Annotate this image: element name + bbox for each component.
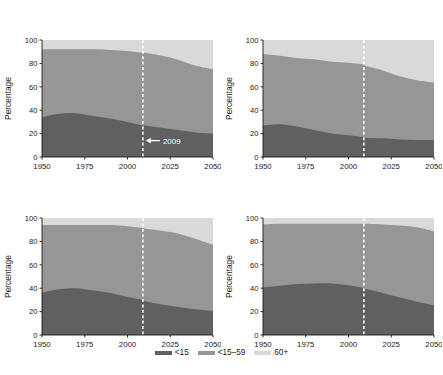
figure-container: A. World 0204060801001950197520002025205… xyxy=(0,0,443,375)
y-tick-label: 20 xyxy=(250,129,258,138)
x-tick-label: 1950 xyxy=(33,162,51,171)
y-tick-label: 0 xyxy=(254,331,258,340)
y-axis-title: Percentage xyxy=(3,77,13,120)
y-tick-label: 100 xyxy=(25,214,38,223)
top-divider xyxy=(0,0,443,3)
y-tick-label: 100 xyxy=(246,36,259,45)
y-tick-label: 80 xyxy=(250,59,258,68)
x-tick-label: 1975 xyxy=(76,340,94,349)
y-tick-label: 40 xyxy=(29,284,37,293)
chart-legend: <15 <15–59 60+ xyxy=(0,349,443,357)
x-tick-label: 1975 xyxy=(297,340,315,349)
y-tick-label: 40 xyxy=(250,106,258,115)
x-tick-label: 1975 xyxy=(76,162,94,171)
x-tick-label: 1950 xyxy=(33,340,51,349)
legend-swatch-under15-icon xyxy=(155,351,172,355)
legend-swatch-60plus-icon xyxy=(254,351,271,355)
legend-label-60plus: 60+ xyxy=(274,349,288,357)
x-tick-label: 2025 xyxy=(383,162,401,171)
x-tick-label: 2025 xyxy=(162,162,180,171)
y-tick-label: 60 xyxy=(250,83,258,92)
panel-b-more-developed-regions: B. More developed regions 02040608010019… xyxy=(221,4,442,184)
y-tick-label: 20 xyxy=(29,129,37,138)
x-tick-label: 2050 xyxy=(425,340,442,349)
x-tick-label: 1975 xyxy=(297,162,315,171)
y-tick-label: 20 xyxy=(250,307,258,316)
y-tick-label: 0 xyxy=(254,153,258,162)
legend-item-under15: <15 xyxy=(155,349,189,357)
y-tick-label: 0 xyxy=(33,153,37,162)
x-tick-label: 2000 xyxy=(340,162,358,171)
y-tick-label: 100 xyxy=(246,214,259,223)
panel-c-less-developed-regions: C. Less developed regions 02040608010019… xyxy=(0,182,221,362)
y-tick-label: 40 xyxy=(250,284,258,293)
y-axis-title: Percentage xyxy=(224,255,234,298)
y-tick-label: 80 xyxy=(29,237,37,246)
x-tick-label: 1950 xyxy=(254,340,272,349)
y-axis-title: Percentage xyxy=(3,255,13,298)
y-tick-label: 60 xyxy=(250,261,258,270)
y-tick-label: 100 xyxy=(25,36,38,45)
y-tick-label: 20 xyxy=(29,307,37,316)
annotation-label-2009: 2009 xyxy=(163,137,181,146)
x-tick-label: 2025 xyxy=(383,340,401,349)
x-tick-label: 2000 xyxy=(119,162,137,171)
legend-item-15to59: <15–59 xyxy=(198,349,246,357)
panel-c-plot: 02040608010019501975200020252050Percenta… xyxy=(0,182,221,362)
legend-label-15to59: <15–59 xyxy=(218,349,246,357)
x-tick-label: 2000 xyxy=(340,340,358,349)
x-tick-label: 2050 xyxy=(425,162,442,171)
y-tick-label: 0 xyxy=(33,331,37,340)
y-tick-label: 40 xyxy=(29,106,37,115)
panel-d-plot: 02040608010019501975200020252050Percenta… xyxy=(221,182,442,362)
x-tick-label: 1950 xyxy=(254,162,272,171)
panel-b-plot: 02040608010019501975200020252050Percenta… xyxy=(221,4,442,184)
legend-swatch-15to59-icon xyxy=(198,351,215,355)
panel-a-plot: 02040608010019501975200020252050Percenta… xyxy=(0,4,221,184)
y-tick-label: 60 xyxy=(29,83,37,92)
y-tick-label: 80 xyxy=(29,59,37,68)
legend-item-60plus: 60+ xyxy=(254,349,288,357)
y-axis-title: Percentage xyxy=(224,77,234,120)
legend-label-under15: <15 xyxy=(175,349,189,357)
x-tick-label: 2000 xyxy=(119,340,137,349)
y-tick-label: 60 xyxy=(29,261,37,270)
panel-d-least-developed-countries: D. Least developed countries 02040608010… xyxy=(221,182,442,362)
x-tick-label: 2050 xyxy=(204,162,221,171)
panel-a-world: A. World 0204060801001950197520002025205… xyxy=(0,4,221,184)
y-tick-label: 80 xyxy=(250,237,258,246)
